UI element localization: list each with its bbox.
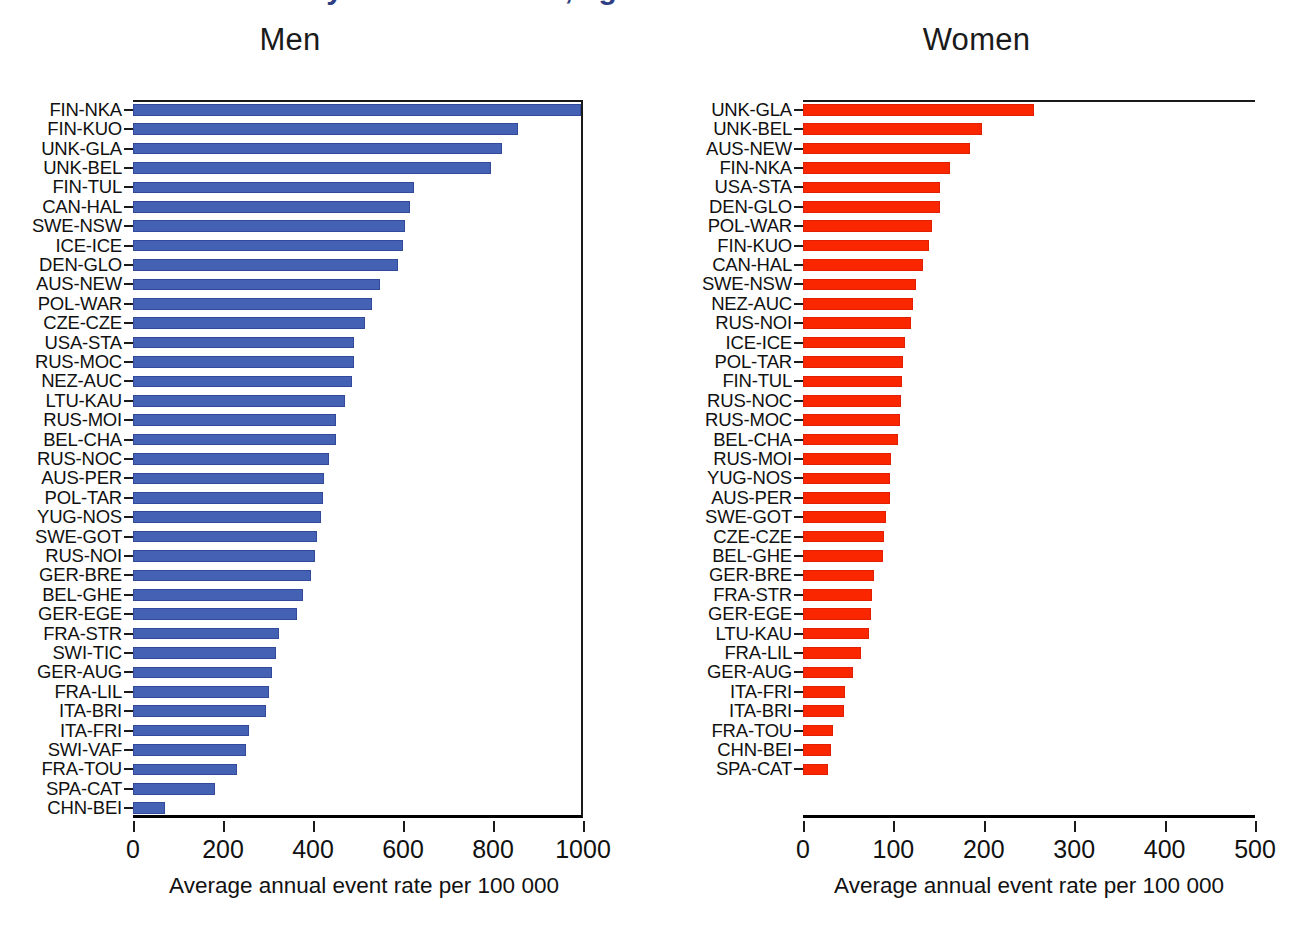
bar[interactable] <box>803 764 828 776</box>
y-axis-tick <box>794 225 803 227</box>
y-axis-tick <box>124 691 133 693</box>
bar[interactable] <box>133 473 324 485</box>
bar[interactable] <box>803 628 869 640</box>
bar[interactable] <box>803 182 940 194</box>
bar[interactable] <box>133 376 352 388</box>
bar[interactable] <box>133 298 372 310</box>
chart-panels: Men FIN-NKAFIN-KUOUNK-GLAUNK-BELFIN-TULC… <box>0 0 1293 951</box>
bar[interactable] <box>803 608 871 620</box>
plot-area-women: UNK-GLAUNK-BELAUS-NEWFIN-NKAUSA-STADEN-G… <box>803 100 1255 818</box>
bar[interactable] <box>133 182 414 194</box>
bar[interactable] <box>803 123 982 135</box>
y-axis-tick <box>124 186 133 188</box>
bar[interactable] <box>803 298 913 310</box>
y-axis-tick <box>794 652 803 654</box>
bar[interactable] <box>803 201 940 213</box>
bar[interactable] <box>803 220 932 232</box>
bar[interactable] <box>133 143 502 155</box>
x-axis-tick <box>313 821 315 832</box>
bar[interactable] <box>133 201 410 213</box>
bar[interactable] <box>803 647 861 659</box>
bar[interactable] <box>803 531 884 543</box>
y-axis-tick <box>794 458 803 460</box>
bar[interactable] <box>803 259 923 271</box>
bar[interactable] <box>133 317 365 329</box>
bar[interactable] <box>133 764 237 776</box>
bar[interactable] <box>803 279 916 291</box>
bar[interactable] <box>133 744 246 756</box>
bar-row: FIN-NKA <box>133 104 583 116</box>
bar[interactable] <box>133 395 345 407</box>
bar[interactable] <box>133 511 321 523</box>
bar[interactable] <box>803 667 853 679</box>
x-axis-tick <box>803 821 805 832</box>
bar[interactable] <box>803 492 890 504</box>
bar[interactable] <box>803 686 845 698</box>
bar-row: AUS-PER <box>133 473 583 485</box>
y-axis-tick <box>794 148 803 150</box>
bar[interactable] <box>133 162 491 174</box>
bar[interactable] <box>133 647 276 659</box>
bar-row: CZE-CZE <box>803 531 1255 543</box>
bar[interactable] <box>133 240 403 252</box>
bar[interactable] <box>133 434 336 446</box>
bar[interactable] <box>133 570 311 582</box>
bar[interactable] <box>803 511 886 523</box>
bar[interactable] <box>133 550 315 562</box>
bar[interactable] <box>803 104 1034 116</box>
x-axis-tick-label: 800 <box>472 835 514 864</box>
bar-row: CAN-HAL <box>133 201 583 213</box>
bar[interactable] <box>133 356 354 368</box>
bar[interactable] <box>133 686 269 698</box>
bar[interactable] <box>133 802 165 814</box>
bar[interactable] <box>133 337 354 349</box>
bar[interactable] <box>803 143 970 155</box>
bar-row: BEL-CHA <box>133 434 583 446</box>
bar[interactable] <box>133 608 297 620</box>
bar[interactable] <box>803 473 890 485</box>
bar[interactable] <box>133 453 329 465</box>
bar[interactable] <box>133 259 398 271</box>
bar[interactable] <box>803 744 831 756</box>
bar[interactable] <box>133 220 405 232</box>
bar[interactable] <box>803 356 903 368</box>
bar[interactable] <box>133 123 518 135</box>
bar[interactable] <box>133 725 249 737</box>
bar-row: CAN-HAL <box>803 259 1255 271</box>
bar[interactable] <box>803 589 872 601</box>
bar[interactable] <box>133 492 323 504</box>
bar[interactable] <box>133 414 336 426</box>
bar[interactable] <box>803 414 900 426</box>
bar[interactable] <box>803 725 833 737</box>
bar-row: FIN-KUO <box>803 240 1255 252</box>
x-axis-men: Average annual event rate per 100 000 02… <box>133 821 583 881</box>
bar[interactable] <box>133 104 581 116</box>
bar[interactable] <box>133 705 266 717</box>
bar[interactable] <box>803 453 891 465</box>
bar[interactable] <box>803 550 883 562</box>
bar[interactable] <box>803 337 905 349</box>
bar[interactable] <box>803 395 901 407</box>
y-axis-tick <box>124 730 133 732</box>
y-axis-tick <box>794 264 803 266</box>
bar[interactable] <box>803 162 950 174</box>
y-axis-tick <box>124 322 133 324</box>
bar[interactable] <box>803 376 902 388</box>
y-axis-tick <box>794 497 803 499</box>
bar[interactable] <box>803 434 898 446</box>
y-axis-tick <box>794 633 803 635</box>
bar[interactable] <box>133 783 215 795</box>
bar[interactable] <box>803 705 844 717</box>
bar[interactable] <box>133 279 380 291</box>
bar[interactable] <box>803 240 929 252</box>
bar[interactable] <box>133 667 272 679</box>
y-axis-tick <box>794 536 803 538</box>
bar[interactable] <box>133 628 279 640</box>
bar[interactable] <box>133 589 303 601</box>
bar[interactable] <box>133 531 317 543</box>
x-axis-label-men: Average annual event rate per 100 000 <box>139 873 589 899</box>
bar[interactable] <box>803 317 911 329</box>
y-axis-tick <box>794 594 803 596</box>
y-axis-tick-label: SPA-CAT <box>716 758 792 780</box>
bar[interactable] <box>803 570 874 582</box>
